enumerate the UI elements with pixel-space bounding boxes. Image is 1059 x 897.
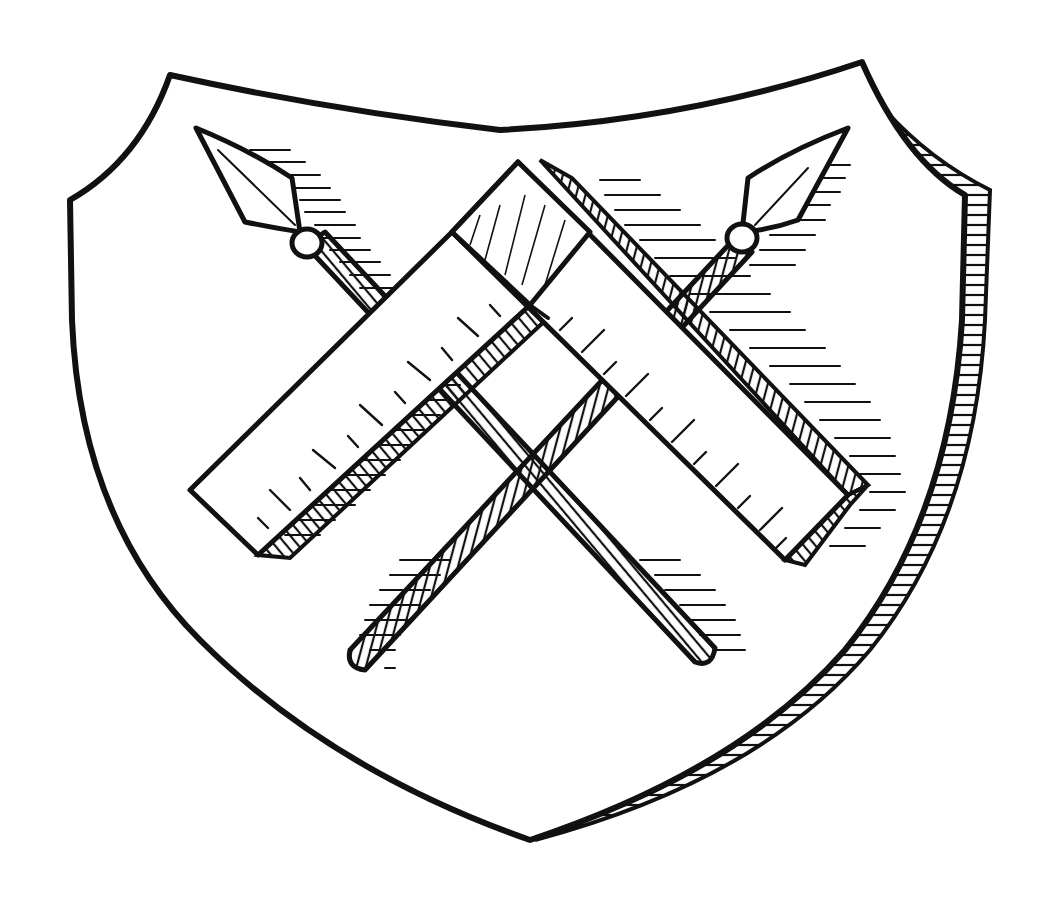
illustration-canvas: Shield with crossed spears and a carpent…	[0, 0, 1059, 897]
spear-right-collar	[727, 224, 757, 252]
spear-left-collar	[292, 229, 322, 257]
shield-illustration	[0, 0, 1059, 897]
